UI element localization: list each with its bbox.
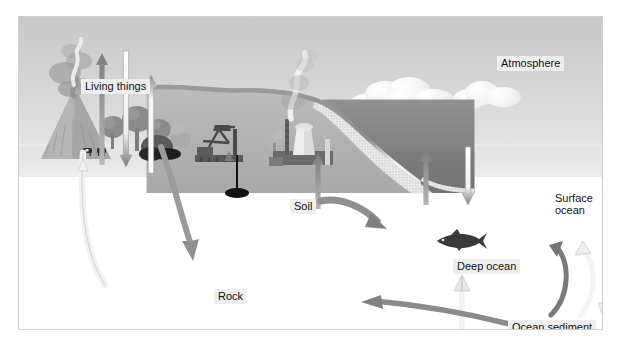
arrow-rock-burial-dark bbox=[149, 145, 209, 265]
arrow-deep-sinking-light bbox=[597, 239, 603, 323]
label-atmosphere: Atmosphere bbox=[497, 56, 564, 71]
diagram-artwork: Living things Atmosphere Soil Rock Surfa… bbox=[18, 16, 603, 330]
label-surface-ocean: Surface ocean bbox=[555, 192, 593, 216]
smokestack-plume bbox=[271, 51, 327, 121]
arrow-deep-circulation-up-light bbox=[567, 239, 601, 321]
arrow-oil-extraction-dark bbox=[219, 151, 239, 169]
label-rock: Rock bbox=[214, 289, 247, 304]
fish bbox=[431, 229, 489, 253]
label-soil: Soil bbox=[290, 199, 316, 214]
arrow-runoff-to-ocean-dark bbox=[319, 195, 395, 235]
arrow-ocean-down-light bbox=[460, 147, 476, 205]
label-surface-ocean-line1: Surface bbox=[555, 192, 593, 204]
label-surface-ocean-line2: ocean bbox=[555, 204, 593, 216]
label-ocean-sediment: Ocean sediment bbox=[508, 320, 596, 330]
label-living-things: Living things bbox=[81, 79, 150, 94]
carbon-cycle-diagram: Living things Atmosphere Soil Rock Surfa… bbox=[0, 0, 621, 346]
small-stack-smoke bbox=[263, 127, 289, 155]
arrow-volcano-conduit-light bbox=[59, 149, 129, 289]
arrow-ocean-up-dark bbox=[418, 149, 434, 205]
label-deep-ocean: Deep ocean bbox=[453, 259, 520, 274]
